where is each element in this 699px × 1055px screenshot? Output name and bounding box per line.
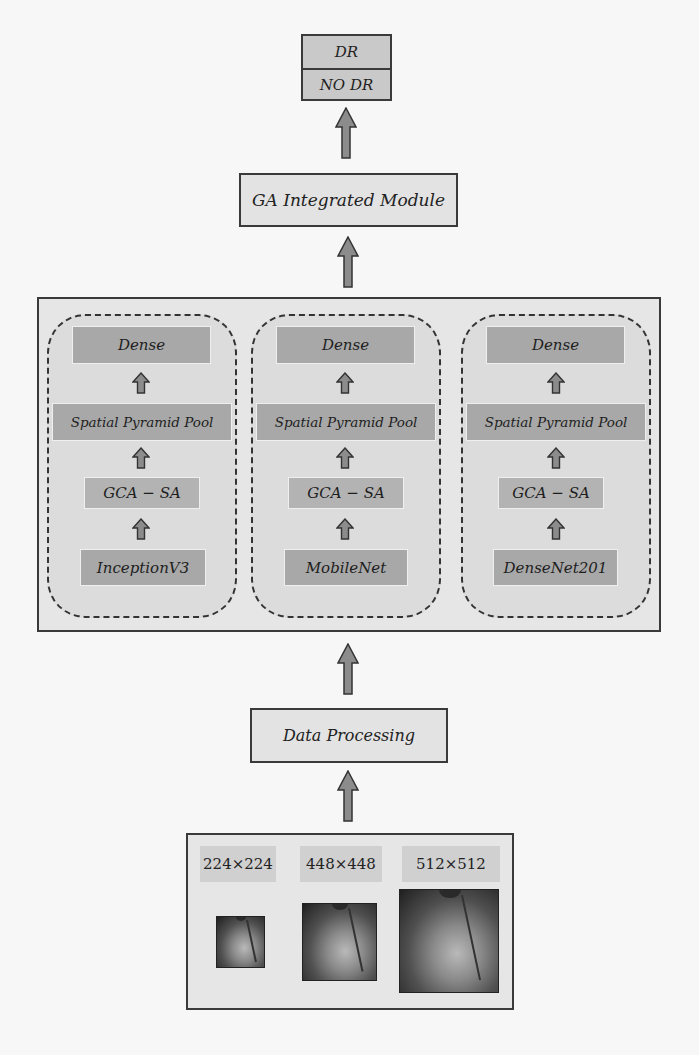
backbone-mobilenet: MobileNet <box>284 549 408 586</box>
ga-integrated-module: GA Integrated Module <box>239 173 458 227</box>
arrow-up-icon <box>336 447 354 469</box>
retinal-image-448 <box>302 903 377 981</box>
size-label-448: 448×448 <box>300 846 382 882</box>
arrow-up-icon <box>132 372 150 394</box>
size-label-224: 224×224 <box>200 846 276 882</box>
arrow-up-icon <box>337 236 359 288</box>
arrow-up-icon <box>547 447 565 469</box>
backbone-densenet201: DenseNet201 <box>493 549 618 586</box>
spatial-pyramid-pool: Spatial Pyramid Pool <box>52 403 232 441</box>
retinal-image-224 <box>216 916 265 968</box>
dense-layer: Dense <box>486 326 625 364</box>
arrow-up-icon <box>335 107 357 159</box>
dense-layer: Dense <box>72 326 211 364</box>
output-classes-box: DR NO DR <box>301 34 392 101</box>
size-label-512: 512×512 <box>402 846 500 882</box>
retinal-image-512 <box>399 889 499 993</box>
arrow-up-icon <box>547 518 565 540</box>
gca-sa-attention: GCA − SA <box>288 477 404 509</box>
arrow-up-icon <box>336 518 354 540</box>
arrow-up-icon <box>337 643 359 695</box>
arrow-up-icon <box>132 518 150 540</box>
gca-sa-attention: GCA − SA <box>498 477 604 509</box>
arrow-up-icon <box>336 372 354 394</box>
arrow-up-icon <box>337 770 359 822</box>
arrow-up-icon <box>132 447 150 469</box>
dense-layer: Dense <box>276 326 415 364</box>
class-no-dr: NO DR <box>303 68 390 102</box>
arrow-up-icon <box>547 372 565 394</box>
class-dr: DR <box>303 36 390 68</box>
spatial-pyramid-pool: Spatial Pyramid Pool <box>466 403 646 441</box>
backbone-inceptionv3: InceptionV3 <box>80 549 206 586</box>
data-processing-box: Data Processing <box>250 708 448 763</box>
gca-sa-attention: GCA − SA <box>84 477 200 509</box>
spatial-pyramid-pool: Spatial Pyramid Pool <box>256 403 436 441</box>
